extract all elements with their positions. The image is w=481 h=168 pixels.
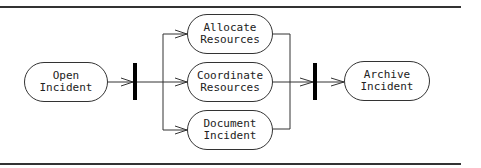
fork-bar	[133, 63, 137, 100]
activity-diagram: Open Incident Allocate Resources Coordin…	[0, 0, 481, 168]
join-bar	[313, 63, 317, 100]
node-label: Resources	[200, 81, 260, 94]
node-label: Resources	[200, 33, 260, 46]
node-label: Incident	[204, 129, 257, 142]
node-label: Incident	[361, 80, 414, 93]
node-label: Incident	[40, 81, 93, 94]
